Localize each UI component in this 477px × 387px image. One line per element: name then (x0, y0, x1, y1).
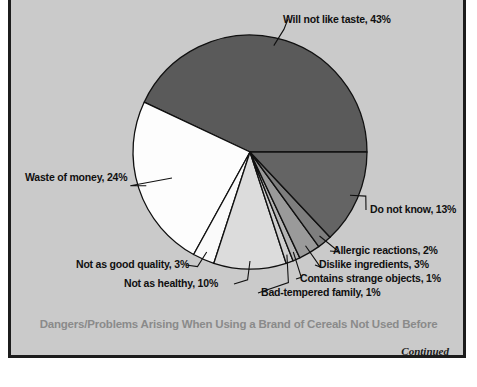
continued-note: Continued (401, 345, 449, 357)
figure-caption: Dangers/Problems Arising When Using a Br… (0, 318, 477, 330)
slice-label-do-not-know: Do not know, 13% (370, 204, 456, 216)
slice-label-bad-tempered-family: Bad-tempered family, 1% (261, 287, 381, 299)
slice-label-contains-strange-objects: Contains strange objects, 1% (300, 273, 441, 285)
slice-label-allergic-reactions: Allergic reactions, 2% (333, 245, 438, 257)
slice-label-waste-of-money: Waste of money, 24% (25, 172, 127, 184)
pie-slices-group (133, 35, 367, 269)
slice-label-not-as-good-quality: Not as good quality, 3% (76, 259, 189, 271)
pie-chart-figure: Will not like taste, 43% Waste of money,… (0, 0, 477, 387)
slice-label-not-as-healthy: Not as healthy, 10% (124, 278, 218, 290)
slice-label-will-not-like-taste: Will not like taste, 43% (283, 14, 391, 26)
slice-label-dislike-ingredients: Dislike ingredients, 3% (319, 259, 429, 271)
